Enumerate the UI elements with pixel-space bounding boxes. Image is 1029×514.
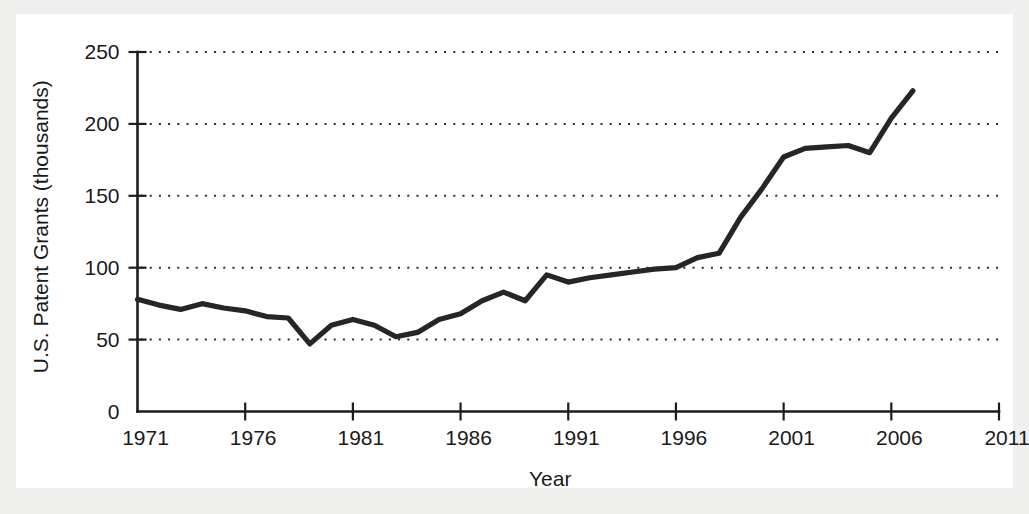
x-tick-label-1976: 1976 <box>230 426 277 449</box>
y-tick-labels-group: 050100150200250 <box>84 40 119 423</box>
x-tick-label-1991: 1991 <box>553 426 600 449</box>
x-tick-label-1996: 1996 <box>661 426 708 449</box>
line-chart-figure: 197119761981198619911996200120062011 050… <box>0 0 1029 514</box>
chart-page: 197119761981198619911996200120062011 050… <box>0 0 1029 514</box>
x-tick-label-1986: 1986 <box>445 426 492 449</box>
x-tick-label-2001: 2001 <box>768 426 815 449</box>
y-tick-label-200: 200 <box>84 112 119 135</box>
y-tick-label-100: 100 <box>84 256 119 279</box>
y-tick-label-50: 50 <box>96 328 119 351</box>
gridlines-group <box>141 52 1000 340</box>
x-tick-label-2006: 2006 <box>876 426 923 449</box>
x-tick-label-1971: 1971 <box>122 426 169 449</box>
x-tick-label-1981: 1981 <box>338 426 385 449</box>
x-tick-labels-group: 197119761981198619911996200120062011 <box>122 426 1029 449</box>
y-axis-label: U.S. Patent Grants (thousands) <box>29 80 52 373</box>
y-tick-label-0: 0 <box>108 400 120 423</box>
data-series-line <box>138 91 913 344</box>
y-tick-label-250: 250 <box>84 40 119 63</box>
x-tick-label-2011: 2011 <box>984 426 1029 449</box>
y-tick-label-150: 150 <box>84 184 119 207</box>
chart-svg: 197119761981198619911996200120062011 050… <box>0 0 1029 514</box>
x-axis-label: Year <box>529 467 571 490</box>
